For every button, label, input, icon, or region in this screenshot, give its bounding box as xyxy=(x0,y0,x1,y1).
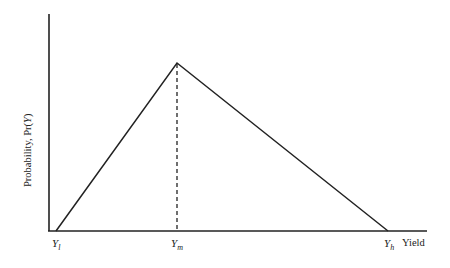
tick-label-y-low: Yl xyxy=(52,237,61,252)
tick-label-y-mode: Ym xyxy=(171,237,183,252)
y-axis-label: Probability, Pr(Y) xyxy=(22,113,34,187)
x-axis-label: Yield xyxy=(402,237,425,248)
tick-label-y-high: Yh xyxy=(384,237,394,252)
triangle-distribution-line xyxy=(56,63,388,231)
triangular-distribution-diagram: Probability, Pr(Y) Yl Ym Yh Yield xyxy=(0,0,450,268)
